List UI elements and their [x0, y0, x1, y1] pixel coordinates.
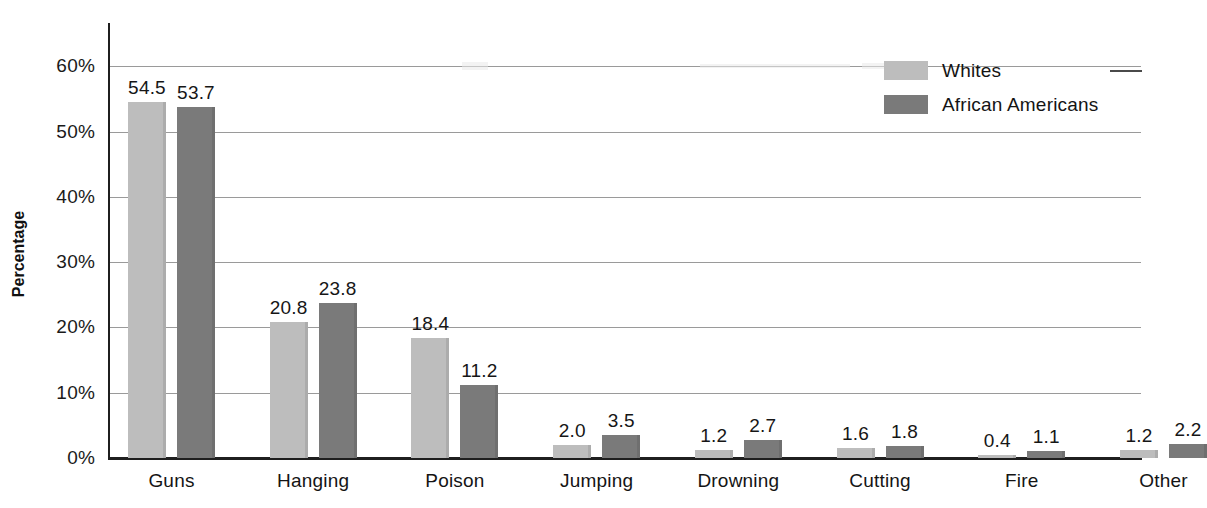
x-axis-category-label: Hanging	[277, 470, 349, 492]
bar-value-label: 23.8	[319, 278, 357, 300]
x-axis-category-label: Poison	[425, 470, 484, 492]
bar	[1169, 444, 1207, 458]
bar	[978, 455, 1016, 458]
bar	[411, 338, 449, 458]
bar	[837, 448, 875, 458]
x-axis-category-label: Drowning	[697, 470, 779, 492]
bar-value-label: 53.7	[177, 82, 215, 104]
bar-value-label: 2.7	[749, 415, 776, 437]
bar	[270, 322, 308, 458]
bar	[744, 440, 782, 458]
bar-value-label: 54.5	[128, 77, 166, 99]
bar	[319, 303, 357, 458]
bar	[602, 435, 640, 458]
bar	[1120, 450, 1158, 458]
scan-artifact-dash	[1110, 70, 1142, 72]
legend-swatch-african-americans	[884, 95, 928, 114]
bar-value-label: 1.2	[1125, 425, 1152, 447]
bar-value-label: 2.2	[1174, 419, 1201, 441]
legend-label-african-americans: African Americans	[942, 94, 1099, 116]
bar	[695, 450, 733, 458]
bar-value-label: 1.1	[1033, 426, 1060, 448]
scan-artifact-smudge-c	[700, 64, 850, 68]
x-axis-category-label: Guns	[148, 470, 194, 492]
scan-artifact-smudge-a	[462, 62, 488, 70]
bar-value-label: 2.0	[559, 420, 586, 442]
x-axis-category-label: Other	[1139, 470, 1188, 492]
bar-value-label: 20.8	[270, 297, 308, 319]
bar-value-label: 1.6	[842, 423, 869, 445]
bar	[553, 445, 591, 458]
bar-value-label: 1.2	[700, 425, 727, 447]
x-axis-category-label: Cutting	[849, 470, 911, 492]
x-axis-category-label: Jumping	[560, 470, 633, 492]
bar-value-label: 0.4	[984, 430, 1011, 452]
legend: Whites African Americans	[884, 56, 1099, 124]
legend-label-whites: Whites	[942, 60, 1001, 82]
legend-item-whites: Whites	[884, 56, 1099, 85]
scan-artifact-smudge-b	[862, 63, 884, 69]
bar	[1027, 451, 1065, 458]
bar-value-label: 1.8	[891, 421, 918, 443]
bar	[177, 107, 215, 458]
bar	[128, 102, 166, 458]
bar	[886, 446, 924, 458]
legend-swatch-whites	[884, 61, 928, 80]
bar-value-label: 3.5	[608, 410, 635, 432]
bar-value-label: 11.2	[461, 360, 497, 382]
bar	[460, 385, 498, 458]
bar-value-label: 18.4	[412, 313, 450, 335]
legend-item-african-americans: African Americans	[884, 90, 1099, 119]
x-axis-category-label: Fire	[1005, 470, 1039, 492]
